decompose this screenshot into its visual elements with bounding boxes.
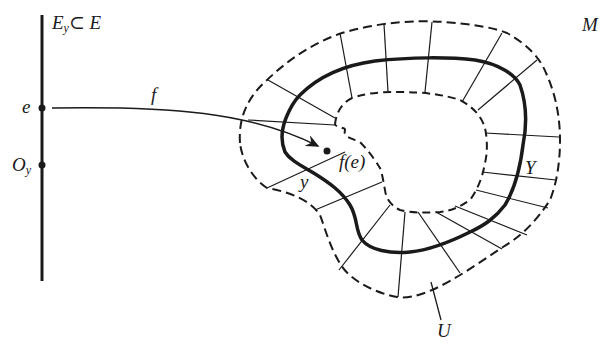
point-e-label: e (22, 97, 30, 116)
map-f-label: f (151, 85, 156, 104)
origin-label: Oy (12, 155, 31, 176)
point-e-dot (39, 105, 46, 112)
origin-dot (39, 162, 46, 169)
manifold-label: M (582, 15, 598, 34)
neighborhood-U-label: U (437, 321, 451, 340)
submanifold-Y-label: Y (525, 158, 536, 177)
image-point-dot (324, 148, 331, 155)
neighborhood-outer-boundary (240, 21, 560, 297)
fiber-label: Ey⊂ E (52, 13, 101, 34)
image-point-label: f(e) (339, 152, 365, 171)
map-f-arrow (52, 108, 318, 146)
point-y-label: y (300, 172, 308, 191)
